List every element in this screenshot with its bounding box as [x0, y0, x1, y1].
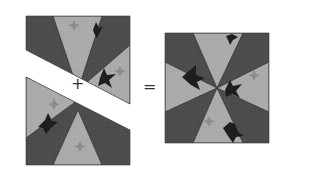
plus-sign: +	[71, 76, 84, 92]
equals-sign: =	[143, 79, 156, 95]
finished-block	[165, 33, 269, 143]
